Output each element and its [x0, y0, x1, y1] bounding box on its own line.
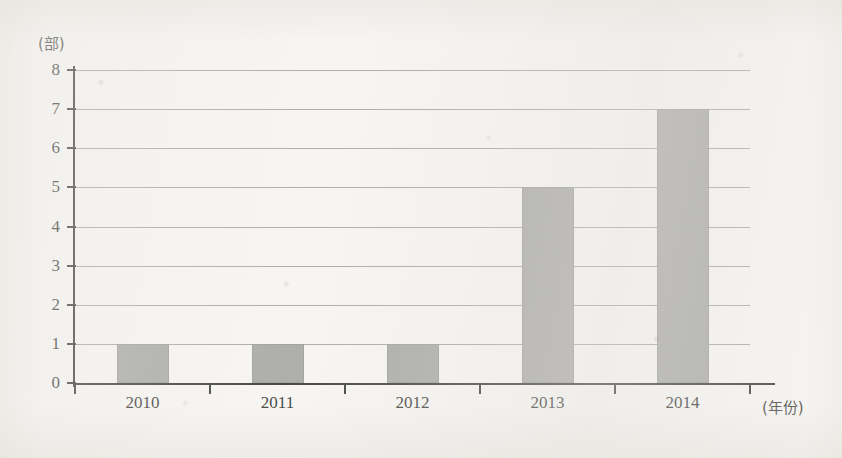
y-tick-label: 5 [30, 178, 60, 195]
y-tick-label: 2 [30, 296, 60, 313]
y-tick-mark [67, 265, 76, 267]
x-tick-label: 2013 [503, 394, 593, 411]
y-tick-label: 6 [30, 139, 60, 156]
bar [657, 109, 709, 383]
y-tick-label: 4 [30, 218, 60, 235]
gridline [75, 148, 750, 149]
y-tick-mark [67, 382, 76, 384]
y-tick-label: 8 [30, 61, 60, 78]
x-tick-mark [74, 385, 76, 394]
x-tick-mark [344, 385, 346, 394]
gridline [75, 70, 750, 71]
gridline [75, 266, 750, 267]
bar [252, 344, 304, 383]
gridline [75, 187, 750, 188]
y-tick-label: 0 [30, 374, 60, 391]
x-tick-mark [614, 385, 616, 394]
x-axis-line [73, 383, 775, 385]
y-tick-mark [67, 226, 76, 228]
y-tick-label: 7 [30, 100, 60, 117]
y-tick-mark [67, 147, 76, 149]
y-tick-mark [67, 343, 76, 345]
x-tick-mark [749, 385, 751, 394]
x-axis-unit-label: (年份) [762, 396, 804, 417]
x-tick-label: 2012 [368, 394, 458, 411]
y-tick-mark [67, 304, 76, 306]
x-tick-mark [209, 385, 211, 394]
y-tick-mark [67, 186, 76, 188]
gridline [75, 305, 750, 306]
plot-area [75, 70, 750, 383]
bar-chart: (部) 876543210 20102011201220132014 (年份) [0, 0, 842, 458]
y-tick-label: 1 [30, 335, 60, 352]
y-tick-mark [67, 69, 76, 71]
bar [522, 187, 574, 383]
bar [387, 344, 439, 383]
y-axis-unit-label: (部) [38, 32, 65, 53]
gridline [75, 109, 750, 110]
x-tick-label: 2011 [233, 394, 323, 411]
x-tick-label: 2010 [98, 394, 188, 411]
x-tick-mark [479, 385, 481, 394]
y-tick-mark [67, 108, 76, 110]
gridline [75, 227, 750, 228]
x-tick-label: 2014 [638, 394, 728, 411]
y-tick-label: 3 [30, 257, 60, 274]
bar [117, 344, 169, 383]
